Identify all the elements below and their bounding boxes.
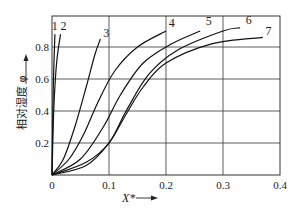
y-arrow-icon	[24, 54, 29, 61]
curve-label-7: 7	[266, 24, 272, 38]
curve-7	[52, 37, 263, 175]
curve-3	[52, 39, 100, 175]
y-axis-title: 相对湿度 φ	[15, 75, 29, 130]
x-tick-label: 0.2	[159, 179, 173, 191]
grid	[52, 16, 280, 175]
tick-labels: 00.10.20.30.40.20.40.60.8	[35, 41, 287, 191]
x-axis-label: X*	[121, 191, 158, 205]
curve-label-4: 4	[169, 16, 175, 30]
x-tick-label: 0	[49, 179, 55, 191]
y-axis-label: 相对湿度 φ	[15, 54, 29, 130]
chart: 1234567 00.10.20.30.40.20.40.60.8 相对湿度 φ…	[0, 0, 306, 218]
curve-label-6: 6	[246, 13, 252, 27]
curve-5	[52, 31, 200, 175]
curve-6	[52, 28, 240, 175]
curve-label-5: 5	[206, 14, 212, 28]
y-tick-label: 0.4	[35, 105, 49, 117]
curve-label-3: 3	[103, 26, 109, 40]
x-tick-label: 0.3	[216, 179, 230, 191]
x-tick-label: 0.1	[102, 179, 116, 191]
y-tick-label: 0.8	[35, 41, 49, 53]
curve-label-1: 1	[52, 19, 58, 33]
y-tick-label: 0.6	[35, 73, 49, 85]
x-axis-title: X*	[121, 191, 135, 205]
x-arrow-icon	[151, 196, 158, 201]
curve-label-2: 2	[60, 19, 66, 33]
curve-labels: 1234567	[52, 13, 272, 40]
curves	[52, 28, 263, 175]
y-tick-label: 0.2	[35, 137, 49, 149]
x-tick-label: 0.4	[273, 179, 287, 191]
